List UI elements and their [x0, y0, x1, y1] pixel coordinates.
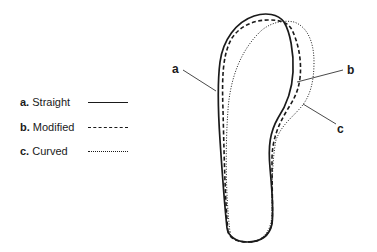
callout-label-a: a [172, 62, 179, 76]
outline-diagram: a b c [0, 0, 377, 252]
straight-outline [218, 14, 293, 242]
modified-outline [223, 20, 301, 242]
callout-b: b [297, 63, 354, 82]
callout-a: a [172, 62, 216, 91]
callout-label-c: c [337, 122, 344, 136]
callout-c: c [303, 104, 344, 136]
curved-outline [226, 21, 314, 242]
callout-label-b: b [347, 63, 354, 77]
